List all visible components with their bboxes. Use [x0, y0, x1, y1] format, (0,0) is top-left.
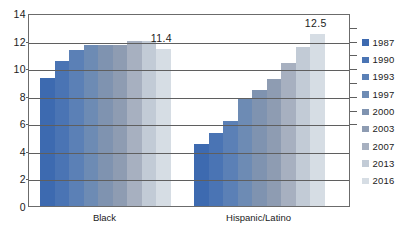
bar — [252, 90, 267, 206]
legend-swatch-icon — [362, 160, 369, 167]
right-tick-6 — [350, 124, 357, 125]
chart-legend: 198719901993199720002003200720132016 — [362, 34, 409, 190]
legend-item-2016[interactable]: 2016 — [362, 172, 409, 189]
value-label-11-4: 11.4 — [151, 32, 172, 44]
right-tick-12 — [350, 42, 357, 43]
bar — [281, 63, 296, 206]
y-tick-label-4: 4 — [2, 146, 26, 158]
legend-item-2003[interactable]: 2003 — [362, 120, 409, 137]
legend-item-2013[interactable]: 2013 — [362, 155, 409, 172]
legend-swatch-icon — [362, 126, 369, 133]
bar — [69, 50, 84, 206]
bar — [142, 41, 157, 206]
bar-group-hispanic-latino — [194, 15, 325, 206]
bar — [127, 41, 142, 206]
legend-item-1997[interactable]: 1997 — [362, 86, 409, 103]
category-label-hispanic-latino: Hispanic/Latino — [193, 212, 324, 223]
legend-item-label: 1987 — [373, 38, 395, 48]
y-tick-label-12: 12 — [2, 36, 26, 48]
right-tick-8 — [350, 97, 357, 98]
y-tick-label-14: 14 — [2, 8, 26, 20]
y-tick-label-8: 8 — [2, 91, 26, 103]
bar — [156, 49, 171, 206]
bar — [113, 45, 128, 206]
right-tick-13 — [350, 28, 357, 29]
value-label-12-5: 12.5 — [305, 17, 327, 29]
bar — [84, 45, 99, 206]
legend-item-1987[interactable]: 1987 — [362, 34, 409, 51]
category-label-black: Black — [39, 212, 170, 223]
legend-swatch-icon — [362, 143, 369, 150]
right-tick-9 — [350, 83, 357, 84]
bar — [98, 45, 113, 206]
legend-item-label: 2003 — [373, 124, 395, 134]
chart-page: 02468101214 1987199019931997200020032007… — [0, 0, 409, 231]
legend-item-label: 2013 — [373, 159, 395, 169]
legend-item-label: 1993 — [373, 72, 395, 82]
bar — [238, 98, 253, 206]
legend-swatch-icon — [362, 74, 369, 81]
legend-item-1993[interactable]: 1993 — [362, 69, 409, 86]
legend-item-label: 2007 — [373, 142, 395, 152]
legend-item-label: 2000 — [373, 107, 395, 117]
right-tick-7 — [350, 111, 357, 112]
bar — [40, 78, 55, 206]
legend-swatch-icon — [362, 57, 369, 64]
right-axis-ticks — [350, 14, 358, 207]
bar — [55, 61, 70, 206]
y-tick-label-2: 2 — [2, 173, 26, 185]
legend-item-1990[interactable]: 1990 — [362, 51, 409, 68]
right-tick-10 — [350, 69, 357, 70]
y-tick-label-6: 6 — [2, 118, 26, 130]
legend-swatch-icon — [362, 39, 369, 46]
bar — [267, 79, 282, 206]
legend-swatch-icon — [362, 109, 369, 116]
legend-item-2000[interactable]: 2000 — [362, 103, 409, 120]
legend-swatch-icon — [362, 91, 369, 98]
bar — [296, 47, 311, 206]
legend-swatch-icon — [362, 178, 369, 185]
legend-item-label: 1997 — [373, 90, 395, 100]
right-tick-11 — [350, 55, 357, 56]
plot-area — [28, 14, 350, 207]
legend-item-label: 2016 — [373, 176, 395, 186]
legend-item-2007[interactable]: 2007 — [362, 138, 409, 155]
bar — [209, 133, 224, 206]
bar — [223, 121, 238, 206]
bar — [194, 144, 209, 206]
legend-item-label: 1990 — [373, 55, 395, 65]
y-tick-label-0: 0 — [2, 201, 26, 213]
y-axis: 02468101214 — [0, 14, 26, 207]
y-tick-label-10: 10 — [2, 63, 26, 75]
bar — [310, 34, 325, 206]
